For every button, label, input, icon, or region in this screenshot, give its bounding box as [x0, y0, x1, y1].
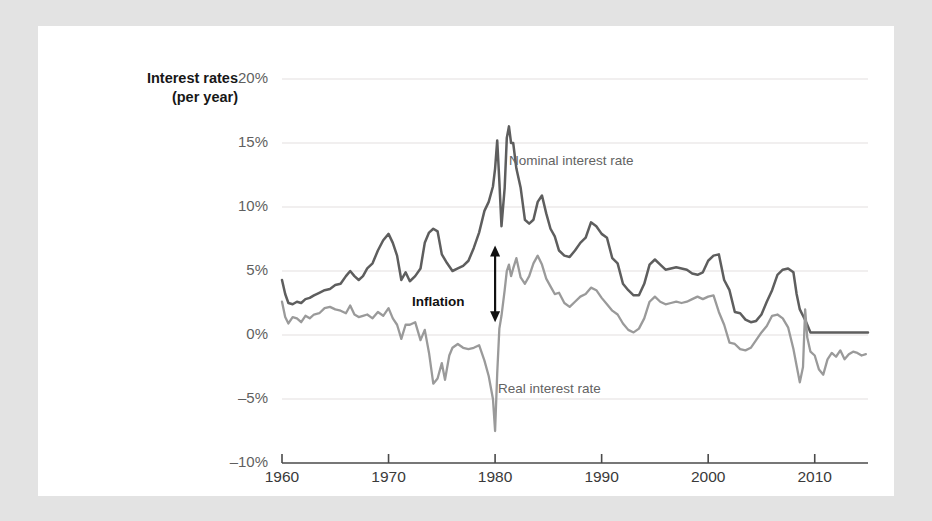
x-tick-label: 1970	[354, 468, 424, 486]
x-tick-label: 1960	[247, 468, 317, 486]
y-tick-label: 0%	[206, 325, 268, 342]
series-label-real: Real interest rate	[498, 381, 601, 396]
inflation-arrow-head-down	[490, 311, 500, 322]
inflation-annotation-label: Inflation	[412, 294, 465, 309]
x-tick-label: 1980	[460, 468, 530, 486]
y-tick-label: 15%	[206, 133, 268, 150]
interest-rates-line-chart: Interest rates (per year) 20%15%10%5%0%–…	[38, 26, 894, 496]
series-label-nominal: Nominal interest rate	[509, 153, 634, 168]
x-tick-label: 2000	[673, 468, 743, 486]
gridlines	[282, 79, 868, 399]
y-axis-title-line2: (per year)	[68, 88, 238, 107]
x-tick-label: 1990	[567, 468, 637, 486]
y-tick-label: 20%	[206, 69, 268, 86]
inflation-arrow-icon	[490, 245, 500, 322]
x-axis-ticks	[282, 454, 815, 463]
y-tick-label: 5%	[206, 261, 268, 278]
inflation-arrow-head-up	[490, 245, 500, 256]
y-tick-label: 10%	[206, 197, 268, 214]
series-line-real	[282, 256, 866, 431]
y-tick-label: –5%	[206, 389, 268, 406]
figure-panel: Interest rates (per year) 20%15%10%5%0%–…	[38, 26, 894, 496]
x-tick-label: 2010	[780, 468, 850, 486]
figure-root: Interest rates (per year) 20%15%10%5%0%–…	[0, 0, 932, 521]
